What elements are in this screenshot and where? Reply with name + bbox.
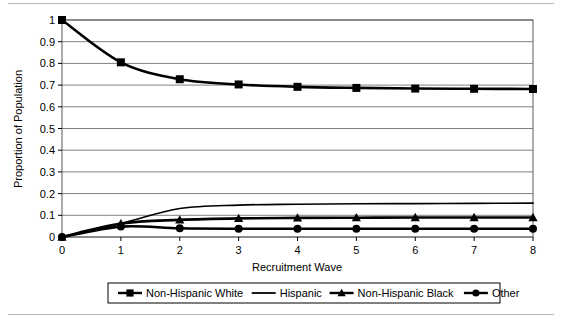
x-axis-tick-label: 0	[59, 244, 65, 256]
top-divider-rule	[8, 3, 554, 4]
data-point-circle-marker	[411, 225, 419, 233]
data-point-square-marker	[58, 16, 66, 24]
y-axis-tick-label: 0.2	[40, 188, 55, 200]
data-point-square-marker	[126, 289, 133, 296]
data-point-circle-marker	[235, 225, 243, 233]
x-axis-tick-label: 8	[530, 244, 536, 256]
data-point-square-marker	[411, 85, 419, 93]
y-axis-tick-label: 0.6	[40, 101, 55, 113]
y-axis-tick-label: 0.3	[40, 166, 55, 178]
x-axis-tick-label: 4	[294, 244, 300, 256]
y-axis-tick-label: 0.1	[40, 209, 55, 221]
y-axis-tick-label: 0.9	[40, 36, 55, 48]
data-point-square-marker	[117, 58, 125, 66]
y-axis-tick-label: 0	[49, 231, 55, 243]
x-axis: 012345678	[59, 237, 536, 256]
y-axis-tick-label: 0.4	[40, 144, 55, 156]
data-point-square-marker	[176, 75, 184, 83]
x-axis-tick-label: 3	[236, 244, 242, 256]
legend-item-label: Non-Hispanic Black	[358, 287, 454, 299]
x-axis-tick-label: 2	[177, 244, 183, 256]
y-axis-tick-label: 0.8	[40, 57, 55, 69]
data-point-square-marker	[529, 85, 537, 93]
data-point-circle-marker	[529, 225, 537, 233]
x-axis-tick-label: 1	[118, 244, 124, 256]
x-axis-tick-label: 6	[412, 244, 418, 256]
x-axis-title: Recruitment Wave	[252, 261, 342, 273]
line-chart: 00.10.20.30.40.50.60.70.80.91 012345678 …	[0, 0, 562, 327]
legend-item-label: Other	[492, 287, 520, 299]
y-axis-tick-label: 1	[49, 14, 55, 26]
data-point-square-marker	[470, 85, 478, 93]
y-axis: 00.10.20.30.40.50.60.70.80.91	[40, 14, 62, 243]
y-axis-tick-label: 0.5	[40, 123, 55, 135]
data-point-circle-marker	[470, 225, 478, 233]
data-point-square-marker	[352, 84, 360, 92]
data-point-circle-marker	[472, 289, 479, 296]
data-point-square-marker	[294, 83, 302, 91]
data-point-square-marker	[235, 80, 243, 88]
data-point-circle-marker	[176, 224, 184, 232]
data-point-circle-marker	[352, 225, 360, 233]
chart-legend: Non-Hispanic WhiteHispanicNon-Hispanic B…	[108, 283, 520, 303]
bottom-divider-rule	[8, 314, 554, 315]
data-point-circle-marker	[294, 225, 302, 233]
legend-item-label: Non-Hispanic White	[146, 287, 243, 299]
data-point-circle-marker	[58, 233, 66, 241]
legend-item-label: Hispanic	[280, 287, 323, 299]
x-axis-tick-label: 7	[471, 244, 477, 256]
chart-figure: 00.10.20.30.40.50.60.70.80.91 012345678 …	[0, 0, 562, 327]
x-axis-tick-label: 5	[353, 244, 359, 256]
data-point-circle-marker	[117, 223, 125, 231]
y-axis-tick-label: 0.7	[40, 79, 55, 91]
y-axis-title: Proportion of Population	[12, 70, 24, 188]
